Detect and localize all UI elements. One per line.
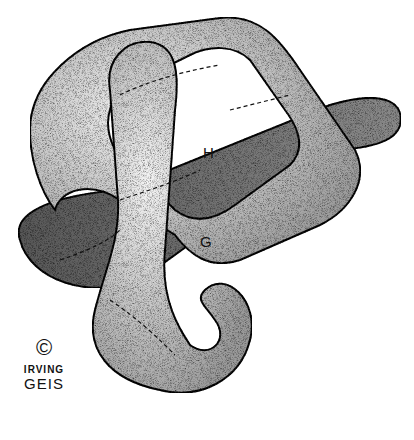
signature-line-1: IRVING	[16, 364, 72, 375]
copyright-symbol: ©	[16, 336, 72, 360]
artist-signature: © IRVING GEIS	[16, 336, 72, 392]
helix-g-label: G	[200, 233, 212, 250]
helix-h-label: H	[203, 144, 214, 161]
protein-illustration: H G © IRVING GEIS	[0, 0, 414, 440]
signature-line-2: GEIS	[16, 375, 72, 392]
